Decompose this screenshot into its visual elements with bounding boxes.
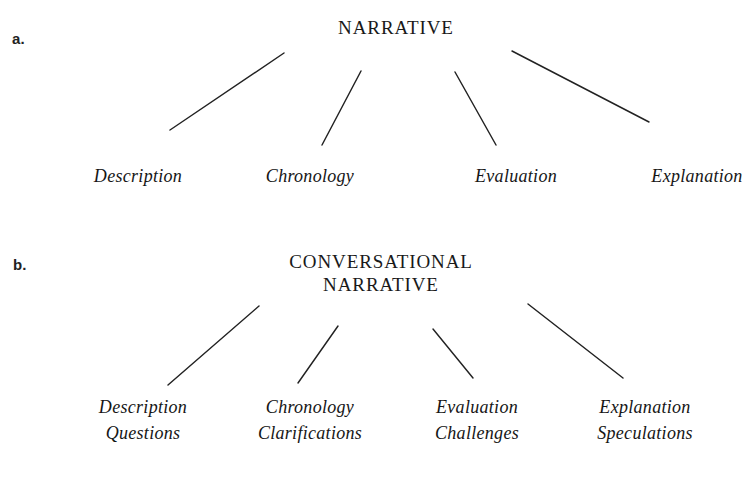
panel-a: a. NARRATIVE Description Chronology Eval… (0, 0, 756, 240)
panel-b-leaf-chronology-clarifications: ChronologyClarifications (258, 394, 362, 446)
leaf-line: Speculations (597, 420, 693, 446)
leaf-line: Explanation (651, 163, 742, 189)
leaf-line: Chronology (258, 394, 362, 420)
panel-b-leaf-explanation-speculations: ExplanationSpeculations (597, 394, 693, 446)
panel-a-leaf-description: Description (94, 163, 182, 189)
panel-b: b. CONVERSATIONALNARRATIVE DescriptionQu… (0, 240, 756, 479)
panel-a-label: a. (12, 30, 25, 47)
panel-b-leaf-evaluation-challenges: EvaluationChallenges (435, 394, 519, 446)
leaf-line: Description (99, 394, 187, 420)
leaf-line: Explanation (597, 394, 693, 420)
leaf-line: Description (94, 163, 182, 189)
panel-a-leaf-evaluation: Evaluation (475, 163, 557, 189)
leaf-line: Chronology (266, 163, 354, 189)
panel-a-root-node: NARRATIVE (338, 16, 454, 39)
panel-b-label: b. (13, 256, 27, 273)
figure-root: a. NARRATIVE Description Chronology Eval… (0, 0, 756, 479)
leaf-line: Challenges (435, 420, 519, 446)
panel-b-root-node: CONVERSATIONALNARRATIVE (289, 250, 473, 296)
panel-a-leaf-chronology: Chronology (266, 163, 354, 189)
leaf-line: Questions (99, 420, 187, 446)
panel-a-leaf-explanation: Explanation (651, 163, 742, 189)
root-line: NARRATIVE (289, 273, 473, 296)
leaf-line: Clarifications (258, 420, 362, 446)
panel-b-leaf-description-questions: DescriptionQuestions (99, 394, 187, 446)
root-line: CONVERSATIONAL (289, 250, 473, 273)
leaf-line: Evaluation (475, 163, 557, 189)
leaf-line: Evaluation (435, 394, 519, 420)
root-line: NARRATIVE (338, 16, 454, 39)
